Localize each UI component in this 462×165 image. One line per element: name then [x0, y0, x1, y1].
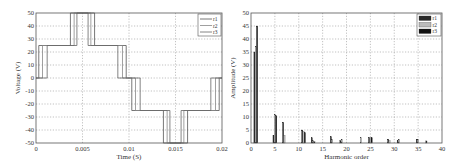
legend-label-r3: r3	[433, 28, 438, 34]
legend-label-r3: r3	[213, 29, 218, 35]
harmonic-bars	[254, 26, 427, 143]
bar-h13-r1	[311, 138, 312, 143]
bar-h1-r1	[254, 52, 255, 143]
bar-h17-r2	[332, 139, 333, 143]
y-tick-label: 35	[243, 48, 250, 55]
y-tick-label: 0	[31, 74, 34, 81]
bar-h25-r2	[370, 138, 371, 143]
y-tick-label: 40	[243, 35, 250, 42]
y-tick-label: 20	[243, 87, 250, 94]
x-tick-label: 10	[296, 145, 303, 152]
harmonic-x-axis-label: Harmonic order	[324, 153, 369, 161]
bar-h1-r2	[255, 47, 256, 143]
bar-h5-r3	[276, 116, 277, 143]
y-tick-label: 45	[243, 22, 250, 29]
harmonic-spectrum-chart: 051015202530354005101520253035404550Harm…	[231, 0, 462, 165]
legend-label-r2: r2	[433, 22, 438, 28]
y-tick-label: 50	[243, 9, 250, 16]
voltage-y-axis-label: Voltage (V)	[14, 61, 22, 94]
y-tick-label: 0	[246, 139, 249, 146]
y-tick-label: 40	[28, 22, 35, 29]
x-tick-label: 20	[343, 145, 350, 152]
x-tick-label: 0.02	[216, 145, 227, 152]
bar-h17-r1	[330, 137, 331, 144]
bar-h5-r1	[273, 135, 274, 143]
x-tick-label: 40	[439, 145, 446, 152]
bar-h35-r2	[417, 139, 418, 143]
legend-swatch-r3	[419, 29, 431, 34]
y-tick-label: -10	[25, 87, 34, 94]
legend-label-r1: r1	[433, 15, 438, 21]
harmonic-legend: r1r2r3	[417, 14, 441, 36]
x-tick-label: 35	[415, 145, 422, 152]
harmonic-grid	[251, 13, 442, 143]
harmonic-y-axis-label: Amplitude (V)	[231, 57, 237, 99]
legend-swatch-r1	[419, 16, 431, 21]
y-tick-label: 20	[28, 48, 35, 55]
bar-h25-r1	[368, 138, 369, 143]
series-line-r3	[36, 13, 222, 143]
x-tick-label: 5	[273, 145, 276, 152]
bar-h19-r2	[341, 139, 342, 143]
y-tick-label: 25	[243, 74, 250, 81]
y-tick-label: 10	[28, 61, 35, 68]
y-tick-label: 15	[243, 100, 250, 107]
y-tick-label: 10	[243, 113, 250, 120]
bar-h11-r3	[304, 133, 305, 143]
harmonic-tick-labels: 051015202530354005101520253035404550	[243, 9, 446, 152]
bar-h7-r2	[284, 135, 285, 143]
bar-h11-r1	[302, 130, 303, 143]
bar-h23-r2	[360, 138, 361, 143]
legend-label-r2: r2	[213, 23, 218, 29]
y-tick-label: -20	[25, 100, 34, 107]
voltage-waveform-chart: 00.0050.010.0150.02-50-40-30-20-10010203…	[0, 0, 231, 165]
x-tick-label: 15	[319, 145, 326, 152]
bar-h7-r1	[282, 122, 283, 143]
y-tick-label: 30	[28, 35, 35, 42]
x-tick-label: 0.015	[168, 145, 183, 152]
y-tick-label: -30	[25, 113, 34, 120]
x-tick-label: 30	[391, 145, 398, 152]
bar-h25-r3	[371, 138, 372, 143]
voltage-x-axis-label: Time (S)	[117, 153, 143, 161]
x-tick-label: 0.005	[75, 145, 90, 152]
x-tick-label: 0	[249, 145, 252, 152]
legend-label-r1: r1	[213, 16, 218, 22]
x-tick-label: 0.01	[123, 145, 134, 152]
voltage-legend: r1r2r3	[198, 14, 221, 36]
voltage-waveform-svg: 00.0050.010.0150.02-50-40-30-20-10010203…	[0, 0, 231, 165]
bar-h31-r2	[398, 139, 399, 143]
voltage-series	[36, 13, 222, 143]
y-tick-label: 50	[28, 9, 35, 16]
bar-h5-r2	[274, 114, 275, 143]
y-tick-label: 5	[246, 126, 249, 133]
y-tick-label: -50	[25, 139, 34, 146]
bar-h35-r1	[416, 139, 417, 143]
y-tick-label: -40	[25, 126, 34, 133]
bar-h29-r1	[388, 139, 389, 143]
harmonic-spectrum-svg: 051015202530354005101520253035404550Harm…	[231, 0, 462, 165]
bar-h1-r3	[256, 26, 257, 143]
x-tick-label: 0	[34, 145, 37, 152]
voltage-tick-labels: 00.0050.010.0150.02-50-40-30-20-10010203…	[25, 9, 227, 152]
x-tick-label: 25	[367, 145, 374, 152]
legend-swatch-r2	[419, 23, 431, 28]
bar-h11-r2	[303, 131, 304, 143]
y-tick-label: 30	[243, 61, 250, 68]
